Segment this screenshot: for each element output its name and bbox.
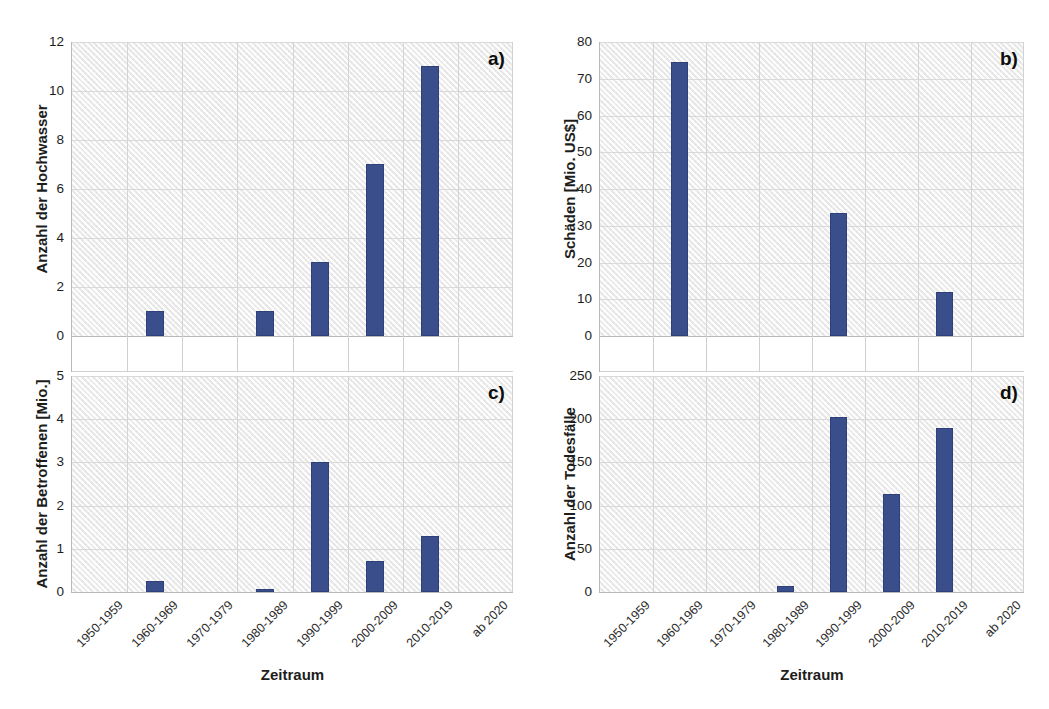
gridline-vertical: [653, 42, 654, 336]
gridline-horizontal: [72, 462, 512, 463]
x-axis-title: Zeitraum: [72, 666, 513, 683]
x-tick-mark: [812, 336, 813, 372]
x-tick-mark: [237, 336, 238, 372]
gridline-vertical: [812, 376, 813, 592]
gridline-horizontal: [72, 376, 512, 377]
bar-2000-2009: [883, 494, 900, 592]
gridline-vertical: [865, 42, 866, 336]
y-axis-line: [71, 42, 72, 372]
gridline-vertical: [918, 42, 919, 336]
y-axis-line: [599, 376, 600, 592]
bar-1990-1999: [311, 462, 329, 592]
x-axis-title: Zeitraum: [600, 666, 1024, 683]
y-axis-title: Anzahl der Todesfälle: [561, 376, 578, 592]
gridline-vertical: [458, 42, 459, 336]
gridline-horizontal: [72, 189, 512, 190]
gridline-horizontal: [72, 506, 512, 507]
x-tick-strip: [600, 336, 1024, 372]
x-tick-mark: [127, 336, 128, 372]
gridline-vertical: [971, 376, 972, 592]
gridline-vertical: [348, 376, 349, 592]
plot-area-d: [600, 376, 1024, 592]
bar-1960-1969: [146, 581, 164, 592]
x-tick-mark: [348, 336, 349, 372]
gridline-horizontal: [72, 42, 512, 43]
gridline-vertical: [759, 376, 760, 592]
plot-area-a: [72, 42, 513, 336]
panel-letter-a: a): [488, 48, 505, 70]
bar-2010-2019: [421, 66, 439, 336]
gridline-vertical: [706, 376, 707, 592]
four-panel-bar-figure: 024681012Anzahl der Hochwassera)01020304…: [0, 0, 1049, 709]
gridline-horizontal: [72, 419, 512, 420]
gridline-vertical: [918, 376, 919, 592]
gridline-vertical: [237, 376, 238, 592]
gridline-vertical: [293, 42, 294, 336]
gridline-vertical: [706, 42, 707, 336]
bar-1990-1999: [311, 262, 329, 336]
gridline-vertical: [653, 376, 654, 592]
gridline-vertical: [348, 42, 349, 336]
gridline-vertical: [182, 42, 183, 336]
x-axis-line: [599, 592, 1024, 593]
x-tick-mark: [759, 336, 760, 372]
gridline-vertical: [293, 376, 294, 592]
gridline-vertical: [403, 376, 404, 592]
x-tick-strip-baseline: [72, 371, 513, 372]
bar-2000-2009: [366, 164, 384, 336]
gridline-vertical: [182, 376, 183, 592]
y-axis-title: Anzahl der Betroffenen [Mio.]: [33, 376, 50, 592]
gridline-horizontal: [72, 549, 512, 550]
gridline-vertical: [403, 42, 404, 336]
gridline-vertical: [812, 42, 813, 336]
y-axis-title: Schäden [Mio. US$]: [561, 42, 578, 336]
x-tick-mark: [865, 336, 866, 372]
gridline-horizontal: [72, 287, 512, 288]
x-axis-line: [71, 592, 513, 593]
y-axis-line: [71, 376, 72, 592]
x-tick-mark: [653, 336, 654, 372]
x-tick-strip: [72, 336, 513, 372]
bar-2010-2019: [421, 536, 439, 592]
bar-2000-2009: [366, 561, 384, 592]
gridline-vertical: [127, 42, 128, 336]
panel-letter-d: d): [1000, 382, 1018, 404]
plot-area-c: [72, 376, 513, 592]
gridline-vertical: [458, 376, 459, 592]
gridline-horizontal: [72, 91, 512, 92]
gridline-vertical: [237, 42, 238, 336]
x-tick-mark: [971, 336, 972, 372]
x-tick-strip-baseline: [600, 371, 1024, 372]
x-tick-mark: [182, 336, 183, 372]
bar-1960-1969: [146, 311, 164, 336]
y-axis-title: Anzahl der Hochwasser: [33, 42, 50, 336]
x-tick-mark: [706, 336, 707, 372]
bar-1990-1999: [830, 417, 847, 592]
x-tick-mark: [403, 336, 404, 372]
gridline-vertical: [127, 376, 128, 592]
bar-1960-1969: [671, 62, 688, 336]
bar-2010-2019: [936, 428, 953, 592]
panel-letter-b: b): [1000, 48, 1018, 70]
x-tick-mark: [293, 336, 294, 372]
gridline-vertical: [759, 42, 760, 336]
y-axis-line: [599, 42, 600, 372]
plot-area-b: [600, 42, 1024, 336]
gridline-horizontal: [72, 238, 512, 239]
gridline-vertical: [865, 376, 866, 592]
bar-2010-2019: [936, 292, 953, 336]
panel-letter-c: c): [488, 382, 505, 404]
gridline-horizontal: [72, 140, 512, 141]
x-tick-mark: [918, 336, 919, 372]
gridline-vertical: [971, 42, 972, 336]
x-tick-mark: [458, 336, 459, 372]
bar-1990-1999: [830, 213, 847, 336]
bar-1980-1989: [256, 311, 274, 336]
